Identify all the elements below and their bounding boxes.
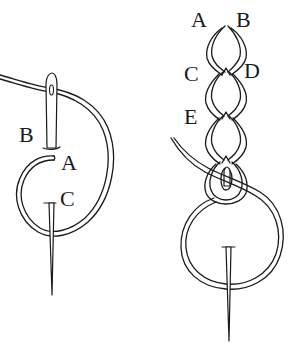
left-lower-needle — [44, 203, 56, 295]
right-label-e: E — [184, 106, 197, 128]
right-label-a: A — [191, 9, 207, 31]
right-label-d: D — [244, 60, 260, 82]
left-label-a: A — [61, 152, 77, 174]
right-label-b: B — [236, 9, 251, 31]
left-figure — [0, 73, 114, 295]
stitch-diagram — [0, 0, 289, 345]
right-lower-needle — [222, 247, 235, 341]
left-upper-needle — [43, 73, 60, 149]
left-label-b: B — [19, 124, 34, 146]
right-label-c: C — [184, 63, 199, 85]
left-label-c: C — [60, 188, 75, 210]
